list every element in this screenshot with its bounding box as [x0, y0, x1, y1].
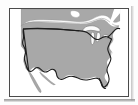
frame-drop-shadow-right [131, 6, 134, 101]
map-frame-border [9, 8, 129, 97]
frame-drop-shadow-bottom [4, 99, 135, 102]
united-states-map-graphic [10, 9, 128, 96]
map-thumbnail [0, 0, 138, 105]
far-east-water [120, 9, 128, 42]
